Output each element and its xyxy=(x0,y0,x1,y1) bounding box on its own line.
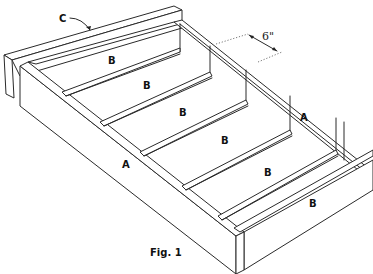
label-b-front: B xyxy=(309,198,317,209)
arrowhead-icon xyxy=(86,26,91,30)
label-a-right: A xyxy=(300,112,308,123)
label-b-3: B xyxy=(179,107,187,118)
label-b-2: B xyxy=(143,80,151,91)
arrowhead-icon xyxy=(249,35,254,39)
label-c: C xyxy=(59,13,66,24)
side-panel-a-left xyxy=(20,66,236,274)
fig-1-diagram: 6" C B B B B B B A A Fig. 1 xyxy=(0,0,373,274)
label-b-5: B xyxy=(264,167,272,178)
dimension-label: 6" xyxy=(262,30,274,43)
label-b-4: B xyxy=(221,135,229,146)
label-c-leader xyxy=(70,18,91,30)
figure-caption: Fig. 1 xyxy=(150,247,182,258)
arrowhead-icon xyxy=(272,47,277,51)
label-b-1: B xyxy=(108,55,116,66)
label-a-left: A xyxy=(122,159,130,170)
